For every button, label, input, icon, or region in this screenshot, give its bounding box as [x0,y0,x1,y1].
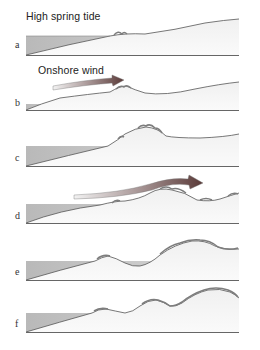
panel-e [26,240,239,281]
panel-a [26,19,239,56]
wind-arrow-b [53,75,124,90]
panel-b [26,75,239,111]
dune-formation-diagram [0,0,260,350]
panel-c [26,125,239,167]
panel-d [26,175,239,224]
panel-f [26,288,239,333]
